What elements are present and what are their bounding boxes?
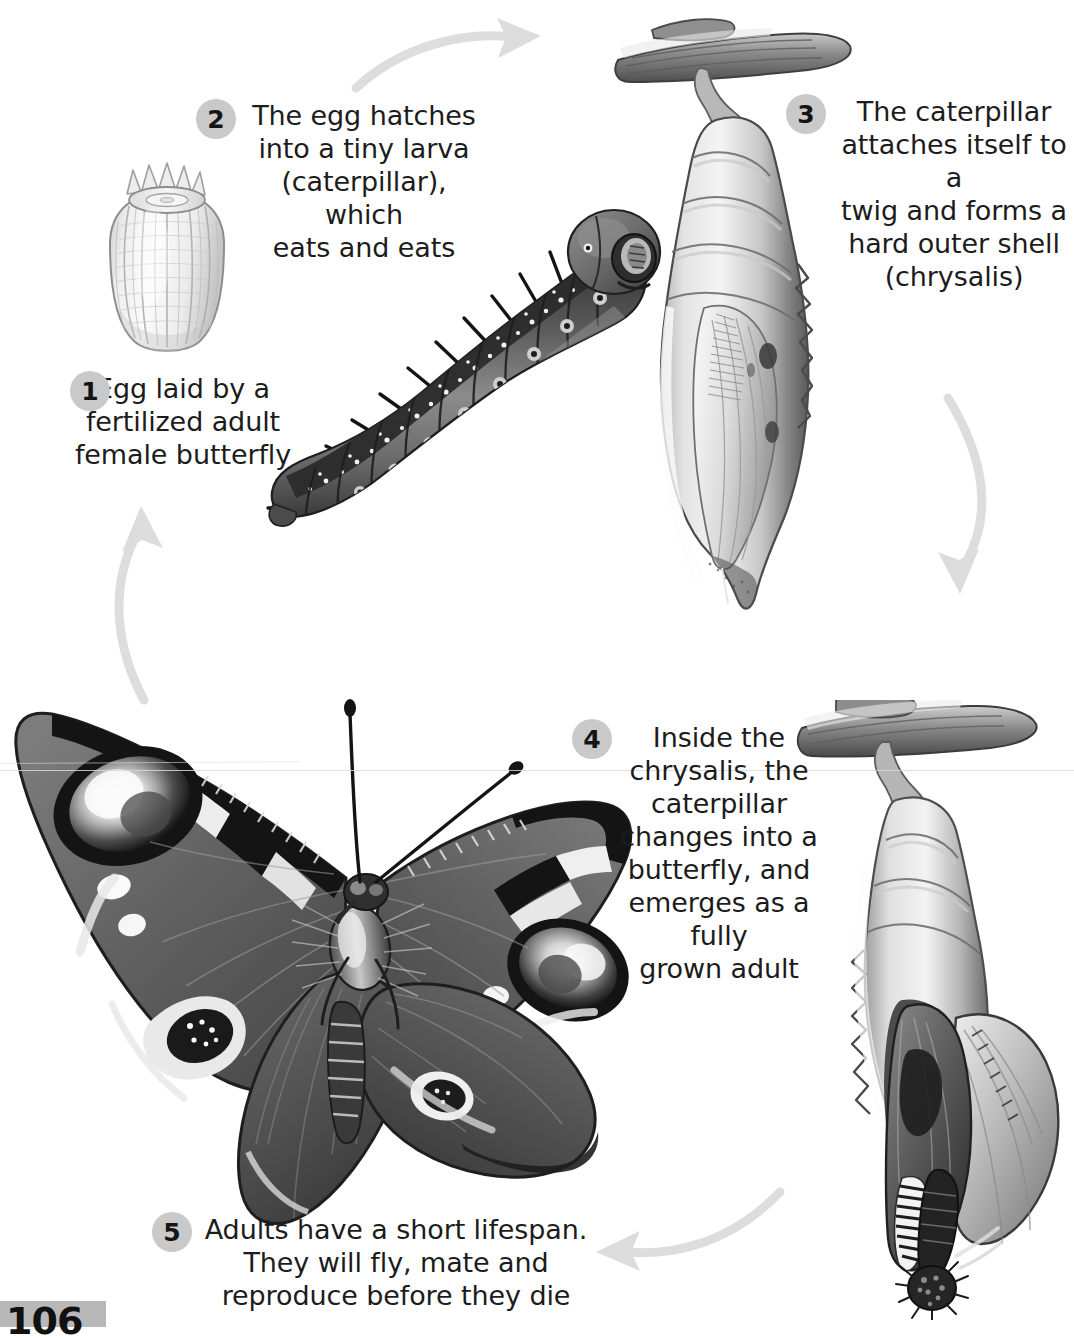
arrow-egg-to-larva [356, 18, 541, 88]
step-4-text: Inside the chrysalis, the caterpillar ch… [572, 722, 822, 986]
step-5-callout: 5 Adults have a short lifespan. They wil… [152, 1214, 592, 1313]
step-2-callout: 2 The egg hatches into a tiny larva (cat… [196, 100, 486, 265]
step-2-text: The egg hatches into a tiny larva (cater… [196, 100, 486, 265]
twig-2 [798, 700, 1037, 757]
step-5-text: Adults have a short lifespan. They will … [152, 1214, 592, 1313]
step-5-badge: 5 [152, 1212, 192, 1252]
step-3-badge: 3 [786, 94, 826, 134]
step-1-callout: 1 Egg laid by a fertilized adult female … [36, 373, 296, 472]
scan-artifact-line [0, 770, 1074, 771]
page-number: 106 [6, 1302, 82, 1339]
arrow-chrysalis-downward [938, 398, 982, 594]
twig [615, 19, 850, 82]
butterfly-emerging-illustration [790, 700, 1074, 1320]
step-4-badge: 4 [572, 719, 612, 759]
adult-butterfly-illustration [0, 652, 634, 1232]
step-3-text: The caterpillar attaches itself to a twi… [786, 96, 1074, 294]
step-4-callout: 4 Inside the chrysalis, the caterpillar … [572, 722, 822, 986]
step-3-callout: 3 The caterpillar attaches itself to a t… [786, 96, 1074, 294]
step-1-badge: 1 [70, 371, 110, 411]
step-2-badge: 2 [196, 99, 236, 139]
